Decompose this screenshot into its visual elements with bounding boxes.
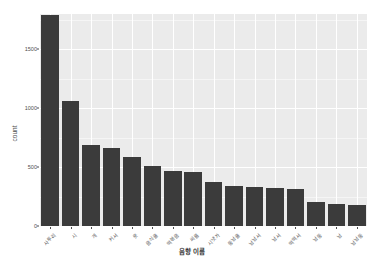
x-axis-tick-mark bbox=[336, 227, 337, 229]
y-axis-tick-label: 1000 bbox=[25, 105, 37, 111]
gridline-y-minor bbox=[40, 79, 367, 80]
x-axis-tick-mark bbox=[275, 227, 276, 229]
gridline-y-minor bbox=[40, 20, 367, 21]
bar bbox=[225, 186, 243, 226]
gridline-x-major bbox=[357, 14, 358, 226]
x-axis-tick-mark bbox=[214, 227, 215, 229]
bar bbox=[307, 202, 325, 226]
x-axis-tick-mark bbox=[316, 227, 317, 229]
bar bbox=[164, 171, 182, 226]
x-axis-tick-mark bbox=[71, 227, 72, 229]
bar bbox=[184, 172, 202, 226]
gridline-x-major bbox=[336, 14, 337, 226]
x-axis-tick-mark bbox=[255, 227, 256, 229]
gridline-y-minor bbox=[40, 138, 367, 139]
x-axis-tick-mark bbox=[50, 227, 51, 229]
gridline-y-major bbox=[40, 226, 367, 227]
bar bbox=[41, 15, 59, 226]
bar bbox=[144, 166, 162, 226]
y-axis-tick-label: 1500 bbox=[25, 46, 37, 52]
bar bbox=[82, 145, 100, 226]
bar bbox=[246, 187, 264, 226]
x-axis-tick-mark bbox=[295, 227, 296, 229]
y-axis-tick-mark bbox=[37, 49, 39, 50]
x-axis-tick-mark bbox=[132, 227, 133, 229]
x-axis-tick-mark bbox=[152, 227, 153, 229]
bar bbox=[348, 205, 366, 226]
bar bbox=[123, 157, 141, 226]
x-axis-tick-mark bbox=[112, 227, 113, 229]
x-axis-tick-mark bbox=[91, 227, 92, 229]
bar bbox=[205, 182, 223, 226]
plot-panel bbox=[40, 14, 367, 226]
y-axis-tick-mark bbox=[37, 108, 39, 109]
y-axis-tick-mark bbox=[37, 226, 39, 227]
bar bbox=[103, 148, 121, 226]
x-axis-tick-mark bbox=[357, 227, 358, 229]
x-axis-tick-mark bbox=[234, 227, 235, 229]
y-axis-tick-label: 500 bbox=[28, 164, 37, 170]
x-axis-tick-mark bbox=[173, 227, 174, 229]
bar bbox=[287, 189, 305, 226]
x-axis-tick-mark bbox=[193, 227, 194, 229]
gridline-x-major bbox=[316, 14, 317, 226]
bar bbox=[62, 101, 80, 226]
gridline-y-major bbox=[40, 108, 367, 109]
y-axis-tick-labels: 050010001500 bbox=[16, 0, 37, 266]
bar bbox=[266, 188, 284, 226]
gridline-y-major bbox=[40, 49, 367, 50]
y-axis-tick-mark bbox=[37, 167, 39, 168]
bar bbox=[328, 204, 346, 226]
bar-chart: count 050010001500 음향 이름 사투리시개커서옷음식을떡볶음씨… bbox=[0, 0, 384, 266]
